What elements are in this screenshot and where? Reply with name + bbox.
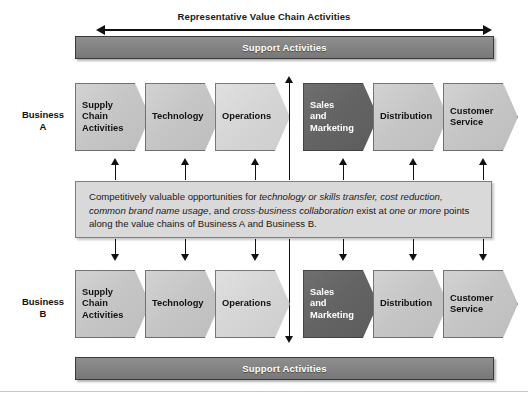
value-chain-diagram: Representative Value Chain Activities Su… xyxy=(0,0,528,406)
title-arrow-right-head xyxy=(483,25,492,35)
arrow-up-shaft-5 xyxy=(413,165,415,180)
frame-bottom-line xyxy=(0,391,528,392)
stage-a-operations-label: Operations xyxy=(222,111,271,123)
stage-a-supply-chain-activities-line1: Supply xyxy=(82,100,123,112)
stage-b-sales-and-marketing-line2: and xyxy=(310,298,354,310)
stage-b-sales-and-marketing[interactable]: Sales and Marketing xyxy=(303,270,378,338)
stage-b-customer-service[interactable]: Customer Service xyxy=(443,270,518,338)
arrow-down-head-5 xyxy=(409,254,417,261)
support-bar-top-label: Support Activities xyxy=(242,42,327,53)
stage-b-customer-service-line2: Service xyxy=(450,304,493,316)
center-arrow-down-head xyxy=(285,336,293,343)
arrow-down-head-2 xyxy=(181,254,189,261)
row-label-business-a-line2: A xyxy=(40,121,47,132)
stage-b-sales-and-marketing-line3: Marketing xyxy=(310,310,354,322)
arrow-down-head-6 xyxy=(479,254,487,261)
stage-a-customer-service-line1: Customer xyxy=(450,106,493,118)
row-label-business-b-line2: B xyxy=(40,308,47,319)
arrow-down-shaft-2 xyxy=(185,239,187,254)
note-seg-0: Competitively valuable opportunities for xyxy=(89,191,259,202)
stage-b-supply-chain-activities-line1: Supply xyxy=(82,287,123,299)
title-arrow-shaft xyxy=(104,29,488,31)
support-bar-bottom-label: Support Activities xyxy=(242,363,327,374)
stage-a-operations[interactable]: Operations xyxy=(215,83,290,151)
stage-b-operations[interactable]: Operations xyxy=(215,270,290,338)
frame-left-line xyxy=(0,391,1,392)
stage-b-technology[interactable]: Technology xyxy=(145,270,220,338)
stage-a-distribution-label: Distribution xyxy=(380,111,432,123)
stage-b-supply-chain-activities-line2: Chain xyxy=(82,298,123,310)
stage-a-sales-and-marketing-line2: and xyxy=(310,111,354,123)
stage-a-sales-and-marketing[interactable]: Sales and Marketing xyxy=(303,83,378,151)
opportunities-note: Competitively valuable opportunities for… xyxy=(75,181,492,238)
arrow-up-shaft-6 xyxy=(483,165,485,180)
stage-a-customer-service[interactable]: Customer Service xyxy=(443,83,518,151)
arrow-up-head-2 xyxy=(181,158,189,165)
stage-b-sales-and-marketing-line1: Sales xyxy=(310,287,354,299)
arrow-down-shaft-6 xyxy=(483,239,485,254)
arrow-down-shaft-5 xyxy=(413,239,415,254)
arrow-up-head-1 xyxy=(111,158,119,165)
stage-a-sales-and-marketing-line3: Marketing xyxy=(310,123,354,135)
note-seg-2: , and xyxy=(208,205,232,216)
arrow-up-head-5 xyxy=(409,158,417,165)
stage-b-distribution-label: Distribution xyxy=(380,298,432,310)
stage-b-technology-label: Technology xyxy=(152,298,203,310)
note-text: Competitively valuable opportunities for… xyxy=(89,191,469,229)
row-label-business-a: Business A xyxy=(14,109,72,133)
arrow-down-shaft-4 xyxy=(343,239,345,254)
diagram-title: Representative Value Chain Activities xyxy=(0,11,528,22)
stage-a-supply-chain-activities-line3: Activities xyxy=(82,123,123,135)
arrow-down-head-1 xyxy=(111,254,119,261)
center-arrow-down-shaft xyxy=(289,239,291,336)
support-activities-bar-top: Support Activities xyxy=(75,36,494,59)
stage-a-supply-chain-activities[interactable]: Supply Chain Activities xyxy=(75,83,150,151)
arrow-up-shaft-1 xyxy=(115,165,117,180)
arrow-up-shaft-3 xyxy=(255,165,257,180)
stage-a-supply-chain-activities-line2: Chain xyxy=(82,111,123,123)
arrow-up-head-3 xyxy=(251,158,259,165)
arrow-up-head-4 xyxy=(339,158,347,165)
center-arrow-up-shaft xyxy=(289,83,291,180)
stage-a-sales-and-marketing-line1: Sales xyxy=(310,100,354,112)
stage-b-operations-label: Operations xyxy=(222,298,271,310)
stage-b-supply-chain-activities[interactable]: Supply Chain Activities xyxy=(75,270,150,338)
stage-a-distribution[interactable]: Distribution xyxy=(373,83,448,151)
stage-b-customer-service-line1: Customer xyxy=(450,293,493,305)
stage-b-distribution[interactable]: Distribution xyxy=(373,270,448,338)
arrow-up-head-6 xyxy=(479,158,487,165)
arrow-down-head-4 xyxy=(339,254,347,261)
center-arrow-up-head xyxy=(285,76,293,83)
stage-b-supply-chain-activities-line3: Activities xyxy=(82,310,123,322)
note-seg-5: one or more xyxy=(389,205,441,216)
arrow-down-head-3 xyxy=(251,254,259,261)
row-label-business-a-line1: Business xyxy=(22,109,64,120)
arrow-up-shaft-2 xyxy=(185,165,187,180)
arrow-down-shaft-3 xyxy=(255,239,257,254)
note-seg-4: exist at xyxy=(354,205,390,216)
row-label-business-b-line1: Business xyxy=(22,296,64,307)
stage-a-customer-service-line2: Service xyxy=(450,117,493,129)
row-label-business-b: Business B xyxy=(14,296,72,320)
arrow-up-shaft-4 xyxy=(343,165,345,180)
support-activities-bar-bottom: Support Activities xyxy=(75,357,494,380)
note-seg-3: cross-business collaboration xyxy=(232,205,353,216)
arrow-down-shaft-1 xyxy=(115,239,117,254)
stage-a-technology[interactable]: Technology xyxy=(145,83,220,151)
stage-a-technology-label: Technology xyxy=(152,111,203,123)
